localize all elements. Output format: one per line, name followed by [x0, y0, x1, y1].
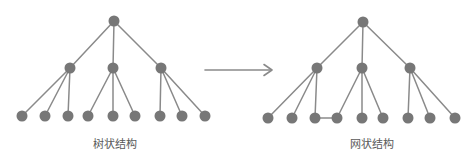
tree-node [177, 111, 188, 122]
tree-node [108, 111, 119, 122]
network-node [403, 113, 414, 124]
tree-edge [88, 68, 113, 116]
tree-node [17, 111, 28, 122]
tree-node [108, 63, 119, 74]
network-node [358, 17, 369, 28]
network-node [312, 63, 323, 74]
network-edge [410, 68, 455, 118]
diagram-canvas: 树状结构 网状结构 [0, 0, 475, 160]
network-edge [408, 68, 410, 118]
tree-edge [113, 21, 114, 68]
tree-node [109, 16, 120, 27]
tree-edge [114, 21, 161, 68]
network-node [263, 113, 274, 124]
tree-node [130, 111, 141, 122]
network-node [405, 63, 416, 74]
tree-to-network-figure: 树状结构 网状结构 [0, 0, 475, 160]
network-node [425, 113, 436, 124]
network-node [378, 113, 389, 124]
network-node [357, 113, 368, 124]
network-edge [362, 22, 363, 68]
tree-edge [70, 21, 114, 68]
network-node [450, 113, 461, 124]
tree-edge [161, 68, 205, 116]
tree-edge [68, 68, 70, 116]
tree-edge [160, 68, 161, 116]
network-edge [292, 68, 317, 118]
tree-edge [22, 68, 70, 116]
network-edge [315, 68, 317, 118]
network-edge [317, 22, 363, 68]
tree-edge [161, 68, 182, 116]
network-edge [410, 68, 430, 118]
network-edge [363, 22, 410, 68]
network-edge [337, 68, 362, 118]
tree-node [200, 111, 211, 122]
tree-structure-diagram [17, 16, 211, 122]
network-node [332, 113, 343, 124]
tree-node [40, 111, 51, 122]
transform-arrow-icon [205, 65, 272, 76]
tree-node [156, 63, 167, 74]
tree-node [83, 111, 94, 122]
tree-structure-label: 树状结构 [93, 137, 137, 150]
tree-node [63, 111, 74, 122]
network-node [287, 113, 298, 124]
tree-edge [45, 68, 70, 116]
tree-node [155, 111, 166, 122]
tree-edge [113, 68, 135, 116]
tree-node [65, 63, 76, 74]
network-structure-diagram [263, 17, 461, 124]
network-edge [268, 68, 317, 118]
network-node [310, 113, 321, 124]
network-node [357, 63, 368, 74]
network-edge [362, 68, 383, 118]
network-structure-label: 网状结构 [350, 137, 394, 150]
